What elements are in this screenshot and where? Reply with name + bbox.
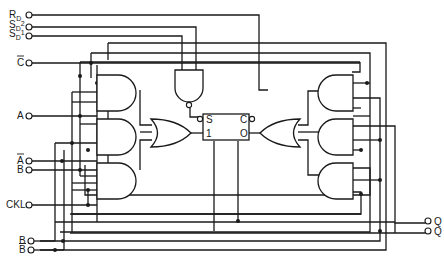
c-bubble xyxy=(249,116,254,121)
ff-pin-1: 1 xyxy=(206,128,212,139)
logic-schematic: RD SD2 SD1 C A A B CKL B B xyxy=(0,0,444,261)
flipflop: S 1 C O xyxy=(197,114,254,140)
ff-pin-o: O xyxy=(240,128,248,139)
input-b: B xyxy=(17,164,32,175)
input-a: A xyxy=(17,110,32,121)
left-and-gates xyxy=(97,75,136,199)
input-ckl: CKL xyxy=(6,199,32,210)
ff-pin-c: C xyxy=(240,114,247,125)
pin-sd1[interactable] xyxy=(26,33,32,39)
pin-b[interactable] xyxy=(26,167,32,173)
input-bbar: B xyxy=(19,244,34,256)
nand-gate xyxy=(175,70,203,108)
pin-q[interactable] xyxy=(425,218,431,224)
nand-bubble xyxy=(186,102,191,107)
s-bubble xyxy=(197,116,202,121)
label-ckl: CKL xyxy=(6,199,26,210)
and-gate-right-2 xyxy=(318,119,353,155)
label-qbar: Q xyxy=(434,226,442,237)
or-gate-left xyxy=(151,119,191,147)
pin-rd[interactable] xyxy=(26,12,32,18)
and-gate-left-2 xyxy=(97,119,136,155)
pin-bbar[interactable] xyxy=(28,247,34,253)
pin-abar[interactable] xyxy=(26,158,32,164)
label-b: B xyxy=(17,164,24,175)
pin-sd2[interactable] xyxy=(26,24,32,30)
pin-a[interactable] xyxy=(26,113,32,119)
and-gate-left-1 xyxy=(97,75,136,111)
pin-ckl[interactable] xyxy=(26,202,32,208)
and-gate-right-1 xyxy=(318,75,353,111)
or-gate-right xyxy=(260,119,300,147)
pin-b2[interactable] xyxy=(28,238,34,244)
and-gate-left-3 xyxy=(97,163,136,199)
ff-pin-s: S xyxy=(206,114,213,125)
label-bbar: B xyxy=(19,244,26,255)
label-cbar: C xyxy=(17,57,24,68)
pin-cbar[interactable] xyxy=(26,60,32,66)
input-cbar: C xyxy=(17,56,32,68)
label-a: A xyxy=(17,110,24,121)
output-qbar: Q xyxy=(425,226,442,237)
pin-qbar[interactable] xyxy=(425,228,431,234)
and-gate-right-3 xyxy=(318,163,353,199)
right-and-gates xyxy=(318,75,353,199)
